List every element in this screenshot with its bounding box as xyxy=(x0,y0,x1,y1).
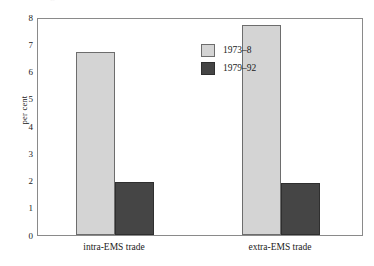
y-tick-label-3: 3 xyxy=(0,150,33,159)
y-tick-label-7: 7 xyxy=(0,41,33,50)
y-tick-label-4: 4 xyxy=(0,123,33,132)
y-tick-label-6: 6 xyxy=(0,68,33,77)
y-tick-label-2: 2 xyxy=(0,177,33,186)
bar-extra-ems-trade-series-1 xyxy=(281,183,320,235)
x-axis-label-0: intra-EMS trade xyxy=(83,242,144,252)
legend-swatch-icon-series-0 xyxy=(201,44,215,57)
legend-item-1: 1979–92 xyxy=(201,61,256,75)
y-tick-label-1: 1 xyxy=(0,204,33,213)
legend: 1973–8 1979–92 xyxy=(201,43,256,79)
y-tick-label-8: 8 xyxy=(0,14,33,23)
y-tick-label-0: 0 xyxy=(0,232,33,241)
y-tick-label-5: 5 xyxy=(0,95,33,104)
chart-figure: trade growth and the EMS per cent 012345… xyxy=(0,0,374,266)
legend-label-series-0: 1973–8 xyxy=(223,45,252,55)
legend-item-0: 1973–8 xyxy=(201,43,256,57)
cropped-caption-remnant: trade growth and the EMS xyxy=(30,0,350,3)
bar-intra-ems-trade-series-1 xyxy=(115,182,154,235)
legend-swatch-icon-series-1 xyxy=(201,62,215,75)
bar-intra-ems-trade-series-0 xyxy=(76,52,115,235)
legend-label-series-1: 1979–92 xyxy=(223,63,256,73)
plot-area: 1973–8 1979–92 xyxy=(37,18,363,236)
x-axis-label-1: extra-EMS trade xyxy=(248,242,311,252)
